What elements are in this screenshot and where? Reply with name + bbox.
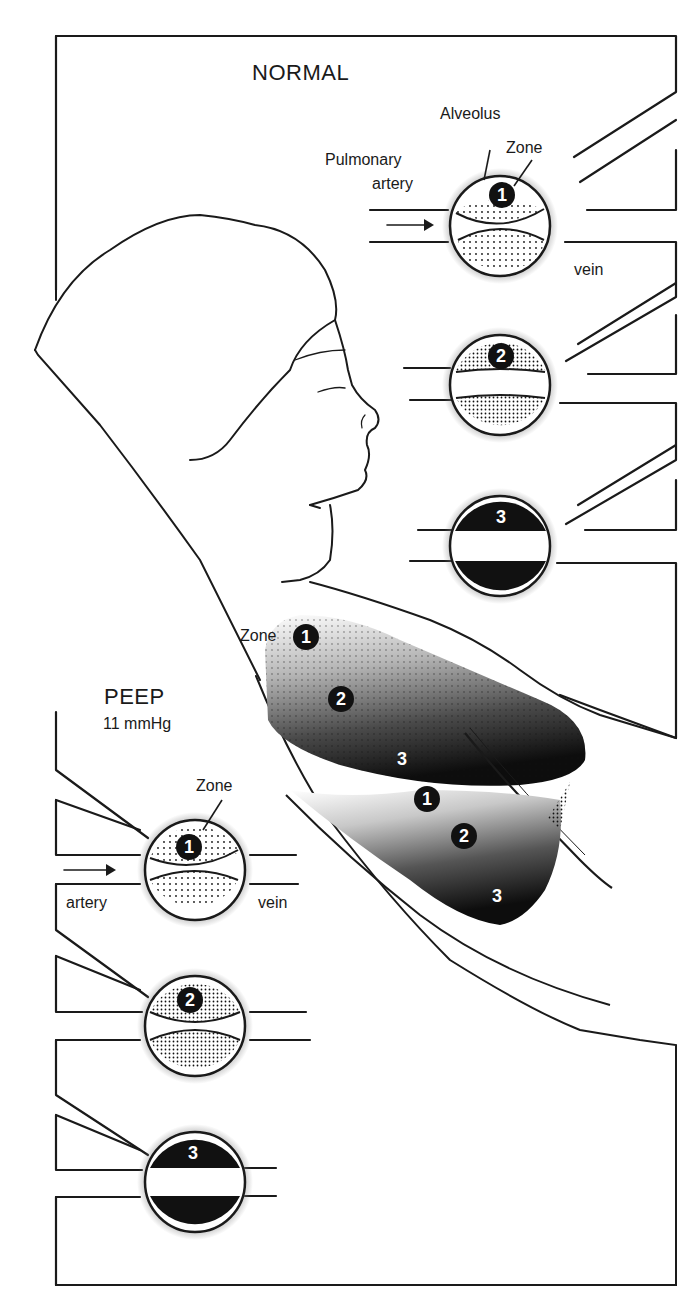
peep-pressure: 11 mmHg	[103, 716, 171, 732]
vein-label-peep: vein	[258, 895, 287, 911]
zone-2-badge-peep: 2	[177, 987, 203, 1013]
zone-1-badge-peep: 1	[176, 834, 202, 860]
pulmonary-label: Pulmonary	[325, 152, 401, 168]
peep-title: PEEP	[104, 686, 165, 708]
lung-zone-prefix: Zone	[240, 628, 276, 644]
artery-label-peep: artery	[66, 895, 107, 911]
lower-lung-zone-1: 1	[414, 786, 440, 812]
peep-alveolus-zone-2	[137, 968, 253, 1084]
zone-1-badge-normal: 1	[489, 182, 515, 208]
alveolus-label: Alveolus	[440, 106, 500, 122]
peep-alveolus-zone-1	[137, 800, 253, 928]
normal-alveolus-zone-1	[442, 150, 558, 284]
upper-lung-zone-3: 3	[389, 746, 415, 772]
zone-2-badge-normal: 2	[488, 343, 514, 369]
lower-lung-zone-3: 3	[484, 883, 510, 909]
lower-lung-zone-2: 2	[451, 823, 477, 849]
vein-label-normal: vein	[574, 262, 603, 278]
artery-label-normal: artery	[372, 176, 413, 192]
upper-lung-zone-1: 1	[293, 624, 319, 650]
lung-zones-illustration	[0, 0, 688, 1316]
zone-3-badge-normal: 3	[488, 504, 514, 530]
zone-label-normal: Zone	[506, 140, 542, 156]
zone-3-badge-peep: 3	[180, 1140, 206, 1166]
zone-label-peep: Zone	[196, 778, 232, 794]
normal-title: NORMAL	[252, 62, 349, 84]
upper-lung-zone-2: 2	[328, 686, 354, 712]
